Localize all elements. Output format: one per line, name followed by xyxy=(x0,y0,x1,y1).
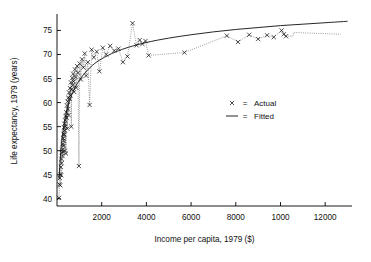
y-tick-label: 65 xyxy=(43,75,53,84)
x-tick-label: 2000 xyxy=(93,213,112,222)
scatter-plot: 2000400060008000100012000 40455055606570… xyxy=(0,0,371,262)
chart-background xyxy=(0,0,371,262)
y-tick-label: 60 xyxy=(43,99,53,108)
legend-label: Fitted xyxy=(254,112,274,121)
x-tick-label: 6000 xyxy=(182,213,201,222)
x-axis-title: Income per capita, 1979 ($) xyxy=(154,235,254,244)
x-tick-label: 4000 xyxy=(137,213,156,222)
y-tick-label: 75 xyxy=(43,26,53,35)
y-tick-label: 50 xyxy=(43,147,53,156)
x-tick-label: 12000 xyxy=(314,213,337,222)
y-tick-label: 55 xyxy=(43,123,53,132)
y-tick-label: 40 xyxy=(43,195,53,204)
y-tick-label: 70 xyxy=(43,50,53,59)
legend-separator: = xyxy=(243,99,248,108)
x-tick-label: 1000 xyxy=(271,213,290,222)
y-axis-title: Life expectancy, 1979 (years) xyxy=(10,57,19,164)
chart-figure: 2000400060008000100012000 40455055606570… xyxy=(0,0,371,262)
legend-label: Actual xyxy=(254,99,276,108)
x-tick-label: 8000 xyxy=(227,213,246,222)
y-tick-label: 45 xyxy=(43,171,53,180)
legend-separator: = xyxy=(243,112,248,121)
